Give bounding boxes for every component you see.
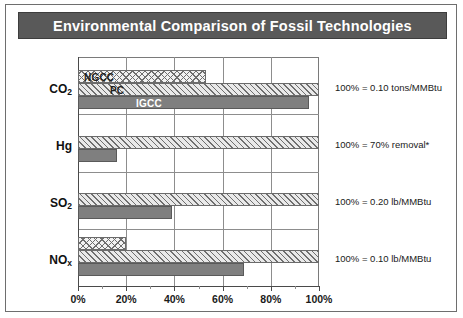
annotation-nox: 100% = 0.10 lb/MMBtu [335, 253, 431, 264]
x-tick-minor-30 [150, 286, 151, 289]
x-tick-80 [271, 286, 272, 291]
category-label-co2-text: CO [49, 82, 67, 96]
group-separator-1 [78, 114, 319, 115]
x-tick-20 [126, 286, 127, 291]
x-tick-100 [319, 286, 320, 291]
series-tag-ngcc: NGCC [84, 72, 114, 83]
category-label-so2: SO2 [20, 196, 72, 210]
x-tick-label-40: 40% [164, 293, 185, 305]
chart-title-bar: Environmental Comparison of Fossil Techn… [18, 12, 447, 39]
x-tick-minor-90 [295, 286, 296, 289]
chart-frame: Environmental Comparison of Fossil Techn… [5, 4, 457, 312]
bar-nox-pc [78, 250, 319, 263]
category-label-so2-sub: 2 [67, 201, 72, 211]
series-tag-pc: PC [110, 85, 124, 96]
bar-co2-igcc [78, 96, 309, 109]
plot-area: NGCC PC IGCC 0% 20% 40% 60% 80% 100% [78, 57, 319, 286]
x-tick-label-60: 60% [212, 293, 233, 305]
group-separator-2 [78, 172, 319, 173]
x-tick-minor-10 [102, 286, 103, 289]
bar-so2-pc [78, 193, 319, 206]
bar-hg-igcc [78, 149, 117, 162]
page-title: Environmental Comparison of Fossil Techn… [53, 18, 412, 34]
category-label-hg-text: Hg [56, 139, 72, 153]
category-label-co2-sub: 2 [67, 87, 72, 97]
bar-so2-igcc [78, 206, 172, 219]
category-label-so2-text: SO [50, 196, 67, 210]
category-label-co2: CO2 [20, 82, 72, 96]
annotation-hg: 100% = 70% removal* [335, 139, 429, 150]
x-tick-label-100: 100% [306, 293, 333, 305]
category-label-nox-sub: x [67, 258, 72, 268]
bar-hg-pc [78, 136, 319, 149]
x-tick-minor-70 [247, 286, 248, 289]
category-label-nox: NOx [20, 253, 72, 267]
x-tick-minor-50 [199, 286, 200, 289]
x-tick-label-20: 20% [116, 293, 137, 305]
x-tick-40 [174, 286, 175, 291]
x-tick-label-0: 0% [70, 293, 85, 305]
bar-nox-ngcc [78, 237, 126, 250]
bar-nox-igcc [78, 263, 244, 276]
category-label-nox-text: NO [49, 253, 67, 267]
series-tag-igcc: IGCC [136, 98, 162, 109]
group-separator-3 [78, 229, 319, 230]
annotation-so2: 100% = 0.20 lb/MMBtu [335, 196, 431, 207]
x-tick-60 [223, 286, 224, 291]
category-label-hg: Hg [20, 139, 72, 153]
x-tick-0 [78, 286, 79, 291]
x-tick-label-80: 80% [260, 293, 281, 305]
annotation-co2: 100% = 0.10 tons/MMBtu [335, 82, 442, 93]
